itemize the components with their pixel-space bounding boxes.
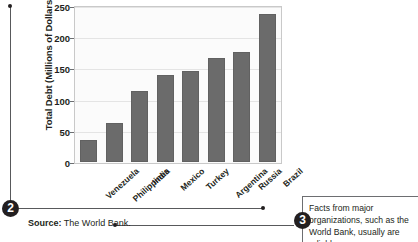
source-value: The World Bank. [64, 218, 131, 228]
bar-mexico[interactable] [157, 75, 174, 162]
x-label-india: India [150, 166, 171, 187]
y-tick-label-200: 200 [40, 33, 70, 44]
bar-philippines[interactable] [106, 123, 123, 162]
y-tick-mark-200 [70, 38, 74, 39]
y-tick-mark-250 [70, 7, 74, 8]
bar-brazil[interactable] [259, 14, 276, 162]
plot-area [74, 6, 282, 164]
bar-turkey[interactable] [182, 71, 199, 162]
callout-2-horizontal-leader-line [19, 208, 263, 209]
x-label-mexico: Mexico [178, 166, 206, 193]
callout-2-leader-endpoint-dot [8, 4, 12, 8]
callout-marker-2[interactable]: 2 [2, 200, 19, 217]
x-axis-category-labels: VenezuelaPhilippinesIndiaMexicoTurkeyArg… [74, 166, 282, 200]
bar-venezuela[interactable] [80, 140, 97, 162]
plot-wrapper: 050100150200250 [74, 6, 282, 164]
y-tick-mark-150 [70, 69, 74, 70]
y-tick-mark-50 [70, 132, 74, 133]
bar-chart-figure: Total Debt (Millions of Dollars) 0501001… [22, 2, 284, 198]
source-line: Source: The World Bank. [28, 218, 131, 228]
bar-russia[interactable] [233, 52, 250, 162]
y-tick-label-150: 150 [40, 64, 70, 75]
bar-india[interactable] [131, 91, 148, 162]
y-tick-label-100: 100 [40, 95, 70, 106]
x-label-brazil: Brazil [281, 166, 305, 189]
bar-argentina[interactable] [208, 58, 225, 162]
callout-2-horizontal-endpoint-dot [261, 206, 265, 210]
callout-marker-3[interactable]: 3 [294, 212, 311, 229]
y-tick-mark-0 [70, 163, 74, 164]
y-tick-label-0: 0 [40, 158, 70, 169]
annotation-callout-text: Facts from major organizations, such as … [302, 196, 418, 242]
callout-2-vertical-leader-line [10, 6, 11, 202]
x-label-turkey: Turkey [204, 166, 231, 192]
source-label: Source: [28, 218, 62, 228]
y-tick-mark-100 [70, 101, 74, 102]
y-tick-label-250: 250 [40, 2, 70, 13]
bars-group [76, 8, 280, 162]
y-tick-label-50: 50 [40, 126, 70, 137]
callout-3-leader-line [116, 225, 294, 226]
